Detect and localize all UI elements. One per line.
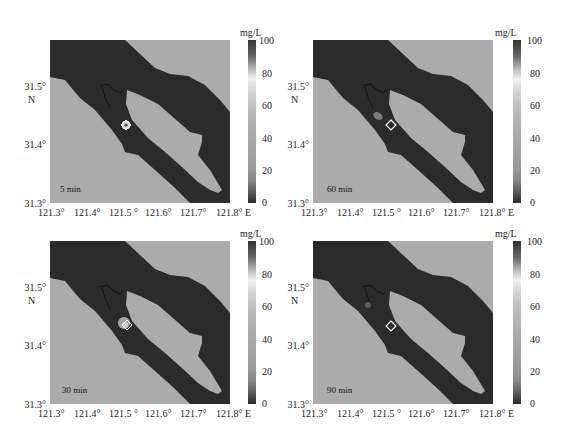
time-label: 30 min — [62, 385, 87, 395]
colorbar-tick: 60 — [530, 302, 540, 312]
x-tick: 121.6° — [408, 409, 435, 419]
y-axis-label: N — [28, 295, 35, 306]
map-plot: 60 min — [313, 40, 493, 203]
map-plot: 90 min — [313, 241, 493, 404]
x-tick: 121.5 ° — [109, 409, 138, 419]
colorbar-tick: 100 — [527, 36, 542, 46]
y-tick: 31.5° — [275, 283, 309, 293]
x-tick: 121.3° — [38, 409, 65, 419]
colorbar-tick: 100 — [527, 237, 542, 247]
colorbar-tick: 40 — [530, 134, 540, 144]
colorbar-tick: 0 — [530, 399, 535, 409]
x-tick: 121.8° E — [479, 409, 514, 419]
estuary-map — [313, 40, 493, 203]
panel-90min: 90 min 31.5° N 31.4° 31.3° 121.3° 121.4°… — [263, 201, 565, 423]
x-tick: 121.3° — [301, 409, 328, 419]
y-tick: 31.4° — [275, 140, 309, 150]
estuary-map — [313, 241, 493, 404]
map-plot: 5 min — [50, 40, 230, 203]
colorbar-tick: 20 — [530, 166, 540, 176]
y-axis-label: N — [28, 94, 35, 105]
x-tick: 121.7° — [180, 409, 207, 419]
x-tick: 121.6° — [145, 409, 172, 419]
y-tick: 31.4° — [12, 341, 46, 351]
x-tick: 121.7° — [443, 409, 470, 419]
y-tick: 31.4° — [12, 140, 46, 150]
x-tick: 121.4° — [337, 409, 364, 419]
time-label: 5 min — [60, 184, 81, 194]
time-label: 60 min — [327, 184, 352, 194]
map-plot: 30 min — [50, 241, 230, 404]
y-axis-label: N — [291, 94, 298, 105]
y-tick: 31.5° — [275, 82, 309, 92]
x-tick: 121.8° E — [216, 409, 251, 419]
x-tick: 121.4° — [74, 409, 101, 419]
estuary-map — [50, 40, 230, 203]
colorbar-tick: 60 — [530, 101, 540, 111]
colorbar-tick: 40 — [530, 335, 540, 345]
y-tick: 31.5° — [12, 283, 46, 293]
panel-5min: 5 min 31.5° N 31.4° 31.3° 121.3° 121.4° … — [0, 0, 282, 222]
colorbar-tick: 80 — [530, 270, 540, 280]
panel-30min: 30 min 31.5° N 31.4° 31.3° 121.3° 121.4°… — [0, 201, 282, 423]
colorbar — [248, 241, 256, 404]
colorbar — [513, 40, 521, 203]
colorbar — [248, 40, 256, 203]
colorbar-unit: mg/L — [495, 27, 517, 38]
y-axis-label: N — [291, 295, 298, 306]
y-tick: 31.4° — [275, 341, 309, 351]
colorbar-unit: mg/L — [495, 228, 517, 239]
colorbar-tick: 20 — [530, 367, 540, 377]
time-label: 90 min — [327, 385, 352, 395]
estuary-map — [50, 241, 230, 404]
y-tick: 31.5° — [12, 82, 46, 92]
colorbar — [513, 241, 521, 404]
panel-60min: 60 min 31.5° N 31.4° 31.3° 121.3° 121.4°… — [263, 0, 565, 222]
colorbar-tick: 80 — [530, 69, 540, 79]
x-tick: 121.5 ° — [372, 409, 401, 419]
